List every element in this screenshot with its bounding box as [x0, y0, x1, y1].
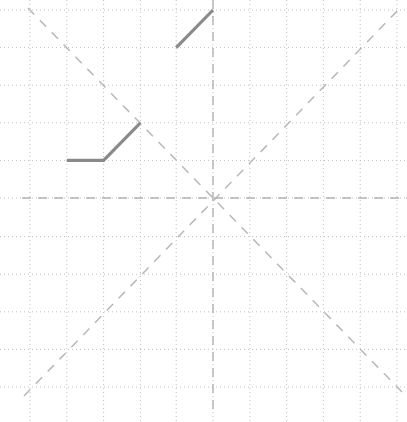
plot-svg: [0, 0, 407, 422]
diagonal-descending: [28, 8, 403, 393]
plot-canvas: [0, 0, 407, 422]
upper-right-segment: [176, 10, 213, 48]
